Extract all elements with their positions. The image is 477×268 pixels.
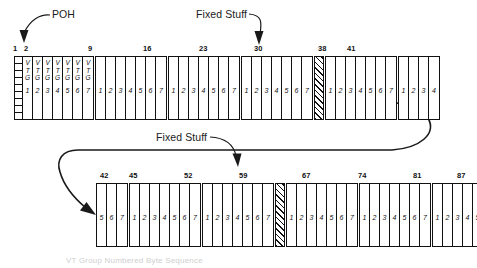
byte-cell-number: 7 xyxy=(263,214,273,221)
vt-group: 1234567 xyxy=(286,183,358,247)
byte-cell: 4 xyxy=(160,184,170,246)
byte-cell-number: 2 xyxy=(297,214,306,221)
byte-cell: 2 xyxy=(252,57,262,119)
vt-group: 1234567 xyxy=(432,183,477,247)
byte-cell-number: 4 xyxy=(317,214,326,221)
byte-cell-number: 6 xyxy=(292,87,301,94)
byte-cell-number: 1 xyxy=(287,214,296,221)
byte-cell-number: 1 xyxy=(23,87,32,94)
position-label: 41 xyxy=(347,44,355,53)
position-label: 16 xyxy=(143,44,151,53)
byte-cell-number: 6 xyxy=(253,214,262,221)
byte-cell: 1 xyxy=(242,57,252,119)
byte-cell-number: 2 xyxy=(33,87,42,94)
byte-cell-number: 7 xyxy=(302,87,312,94)
byte-cell: 5 xyxy=(473,184,477,246)
byte-cell: 1 xyxy=(169,57,179,119)
byte-cell-number: 1 xyxy=(130,214,139,221)
vtg-letter: V xyxy=(83,59,93,67)
vt-group: 1234 xyxy=(398,56,440,120)
byte-cell: 5 xyxy=(170,184,180,246)
vtg-letter: T xyxy=(73,67,82,75)
byte-cell-number: 5 xyxy=(282,87,291,94)
byte-cell-number: 2 xyxy=(336,87,345,94)
byte-cell-number: 5 xyxy=(243,214,252,221)
byte-cell: 1 xyxy=(360,184,370,246)
vt-group: 1234567 xyxy=(241,56,313,120)
byte-cell-number: 4 xyxy=(356,87,365,94)
byte-cell: VTG5 xyxy=(63,57,73,119)
position-label: 59 xyxy=(239,171,247,180)
byte-cell-number: 4 xyxy=(199,87,208,94)
byte-cell-number: 4 xyxy=(126,87,135,94)
byte-cell-number: 6 xyxy=(180,214,189,221)
byte-cell-number: 3 xyxy=(223,214,232,221)
vtg-letter: T xyxy=(33,67,42,75)
byte-cell: 1 xyxy=(96,57,106,119)
byte-cell: 6 xyxy=(219,57,229,119)
byte-cell: 4 xyxy=(126,57,136,119)
byte-cell-number: 1 xyxy=(203,214,212,221)
byte-cell: VTG2 xyxy=(33,57,43,119)
byte-cell: VTG1 xyxy=(23,57,33,119)
byte-cell: 5 xyxy=(136,57,146,119)
byte-cell-number: 4 xyxy=(429,87,439,94)
byte-cell: 5 xyxy=(97,184,107,246)
vtg-letter: G xyxy=(53,74,62,82)
poh-slot xyxy=(15,85,22,92)
byte-cell: VTG6 xyxy=(73,57,83,119)
position-label: 2 xyxy=(24,44,28,53)
byte-cell-number: 4 xyxy=(390,214,399,221)
byte-cell: 7 xyxy=(190,184,200,246)
position-label: 74 xyxy=(358,171,366,180)
vtg-letter: V xyxy=(63,59,72,67)
poh-leader-arrow xyxy=(20,15,51,43)
byte-cell-number: 2 xyxy=(140,214,149,221)
byte-cell-number: 3 xyxy=(150,214,159,221)
byte-cell-number: 6 xyxy=(219,87,228,94)
byte-cell-number: 1 xyxy=(399,87,408,94)
byte-cell: 5 xyxy=(327,184,337,246)
byte-cell: 5 xyxy=(400,184,410,246)
byte-cell: 1 xyxy=(203,184,213,246)
byte-cell-number: 4 xyxy=(272,87,281,94)
vt-group: 1234567 xyxy=(202,183,274,247)
byte-cell-number: 3 xyxy=(419,87,428,94)
poh-slot xyxy=(15,64,22,71)
byte-cell-number: 6 xyxy=(376,87,385,94)
byte-cell: 6 xyxy=(292,57,302,119)
vtg-letter: T xyxy=(63,67,72,75)
vtg-letter: V xyxy=(43,59,52,67)
byte-cell: 1 xyxy=(287,184,297,246)
byte-cell: 1 xyxy=(399,57,409,119)
byte-cell-number: 5 xyxy=(136,87,145,94)
poh-slot xyxy=(15,99,22,106)
byte-cell: VTG3 xyxy=(43,57,53,119)
byte-cell: 7 xyxy=(302,57,312,119)
byte-cell: 7 xyxy=(386,57,396,119)
byte-cell: 4 xyxy=(390,184,400,246)
byte-cell: 3 xyxy=(453,184,463,246)
byte-cell-number: 7 xyxy=(420,214,430,221)
byte-cell: 5 xyxy=(282,57,292,119)
byte-cell: 3 xyxy=(150,184,160,246)
byte-cell-number: 3 xyxy=(116,87,125,94)
byte-cell: 6 xyxy=(376,57,386,119)
fixed-stuff-top-leader-arrow xyxy=(249,14,264,45)
byte-cell-number: 7 xyxy=(83,87,93,94)
byte-cell: 2 xyxy=(443,184,453,246)
byte-cell: 5 xyxy=(209,57,219,119)
vt-group: VTG1VTG2VTG3VTG4VTG5VTG6VTG7 xyxy=(22,56,94,120)
byte-cell-number: 1 xyxy=(433,214,442,221)
byte-cell-number: 6 xyxy=(337,214,346,221)
byte-cell-number: 6 xyxy=(146,87,155,94)
byte-cell: 4 xyxy=(272,57,282,119)
vtg-letters: VTG xyxy=(43,59,52,82)
byte-cell-number: 2 xyxy=(179,87,188,94)
frame-row-1: VTG1VTG2VTG3VTG4VTG5VTG6VTG7123456712345… xyxy=(14,56,439,120)
byte-cell: 3 xyxy=(189,57,199,119)
byte-cell-number: 7 xyxy=(190,214,200,221)
byte-cell-number: 5 xyxy=(63,87,72,94)
byte-cell: 6 xyxy=(253,184,263,246)
byte-cell: 1 xyxy=(326,57,336,119)
